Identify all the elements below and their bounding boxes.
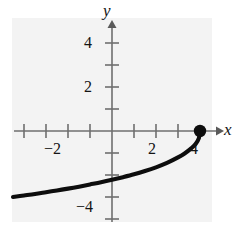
y-axis-label: y — [103, 2, 111, 19]
y-tick-label-4: 4 — [84, 35, 92, 51]
x-axis-arrowhead-icon — [216, 127, 224, 136]
graph-figure: y x −2 2 4 4 2 −4 — [0, 0, 242, 228]
y-tick-label-2: 2 — [84, 79, 92, 95]
y-tick-label--4: −4 — [76, 199, 93, 215]
x-tick-label--2: −2 — [44, 141, 61, 157]
x-tick-label-2: 2 — [148, 141, 156, 157]
x-axis-label: x — [224, 121, 232, 138]
coordinate-plane-svg — [0, 0, 242, 228]
y-axis-arrowhead-icon — [108, 20, 117, 28]
x-tick-label-4: 4 — [190, 141, 198, 157]
function-curve — [13, 131, 200, 197]
closed-endpoint-dot — [194, 125, 206, 137]
